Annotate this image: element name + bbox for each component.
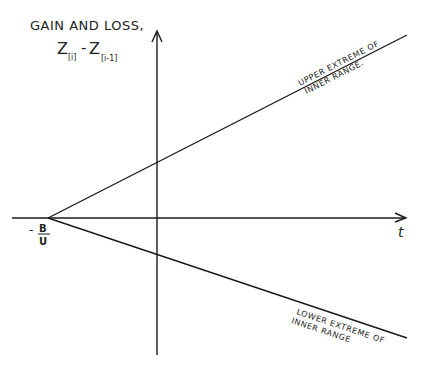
y-axis-label: GAIN AND LOSS, (30, 18, 144, 33)
svg-text:Z: Z (57, 39, 68, 58)
upper-line-label: UPPER EXTREME OF INNER RANGE. (297, 39, 385, 97)
svg-text:U: U (39, 236, 47, 247)
svg-text:Z: Z (89, 39, 100, 58)
origin-label: - B U (29, 223, 50, 247)
svg-text:[i-1]: [i-1] (101, 54, 117, 63)
svg-text:UPPER EXTREME OF: UPPER EXTREME OF (297, 39, 381, 88)
y-axis-expression: Z [i] - Z [i-1] (57, 39, 117, 63)
svg-text:B: B (39, 223, 47, 234)
gain-loss-diagram: GAIN AND LOSS, Z [i] - Z [i-1] t - B U U… (0, 0, 432, 381)
svg-text:[i]: [i] (68, 53, 76, 62)
svg-text:-: - (81, 39, 86, 57)
lower-extreme-line (48, 218, 407, 338)
svg-text:-: - (29, 223, 33, 237)
x-axis-label: t (398, 224, 404, 240)
lower-line-label: LOWER EXTREME OF INNER RANGE (290, 307, 386, 355)
